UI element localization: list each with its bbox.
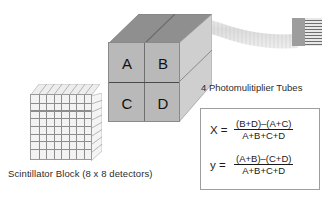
formula-x-fraction: (B+D)–(A+C) A+B+C+D — [234, 119, 293, 141]
position-formula-box: X = (B+D)–(A+C) A+B+C+D y = (A+B)–(C+D) … — [200, 108, 320, 190]
formula-x-numerator: (B+D)–(A+C) — [234, 119, 293, 130]
formula-x-row: X = (B+D)–(A+C) A+B+C+D — [210, 119, 293, 141]
scintillator-detector-grid — [30, 94, 92, 160]
detector-quadrant-a: A — [109, 43, 145, 83]
formula-y-lhs: y = — [210, 159, 234, 171]
detector-quadrant-b-label: B — [158, 55, 168, 72]
detector-quadrant-c: C — [109, 83, 145, 123]
formula-y-numerator: (A+B)–(C+D) — [234, 154, 293, 165]
scintillator-side-face-icon — [91, 93, 102, 161]
formula-x-lhs: X = — [210, 124, 234, 136]
pmt-body-icon — [292, 18, 305, 46]
photomultiplier-tubes-graphic — [292, 18, 322, 46]
detector-block-side-face-icon — [179, 14, 212, 122]
formula-y-denominator: A+B+C+D — [234, 165, 293, 175]
formula-y-row: y = (A+B)–(C+D) A+B+C+D — [210, 154, 293, 176]
pmt-label: 4 Photomulitiplier Tubes — [201, 82, 333, 93]
detector-quadrant-d: D — [145, 83, 181, 123]
detector-quadrant-a-label: A — [122, 55, 132, 72]
scintillator-block-caption: Scintillator Block (8 x 8 detectors) — [8, 168, 213, 179]
quadrant-horizontal-divider — [109, 82, 179, 83]
pmt-anode-stripes-icon — [305, 18, 322, 46]
scintillator-block-graphic — [30, 84, 100, 160]
detector-front-face: A B C D — [108, 42, 180, 122]
formula-y-fraction: (A+B)–(C+D) A+B+C+D — [234, 154, 293, 176]
detector-quadrant-c-label: C — [122, 95, 133, 112]
diagram-canvas: Scintillator Block (8 x 8 detectors) — [0, 0, 333, 205]
formula-x-denominator: A+B+C+D — [234, 130, 293, 140]
detector-quadrant-d-label: D — [158, 95, 169, 112]
detector-block-graphic: A B C D — [108, 14, 212, 122]
detector-quadrant-b: B — [145, 43, 181, 83]
